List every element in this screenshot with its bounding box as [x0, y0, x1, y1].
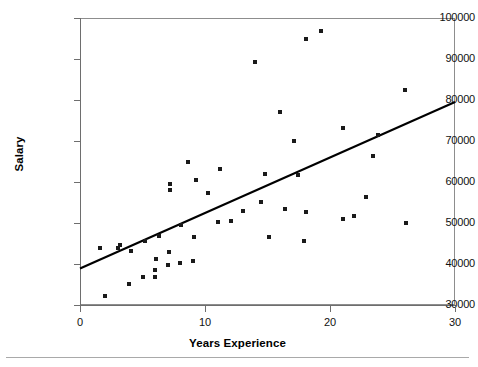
- x-tick-mark: [455, 306, 456, 312]
- y-tick-mark: [74, 182, 80, 183]
- y-tick-label: 100000: [407, 12, 475, 23]
- y-tick-label: 80000: [407, 94, 475, 105]
- y-tick-label: 50000: [407, 217, 475, 228]
- y-tick-label: 70000: [407, 135, 475, 146]
- y-tick-mark: [74, 18, 80, 19]
- x-tick-label: 0: [57, 316, 103, 328]
- x-axis-title: Years Experience: [0, 337, 475, 349]
- x-axis-line: [80, 305, 456, 306]
- footer-divider: [6, 357, 469, 358]
- x-tick-label: 30: [432, 316, 478, 328]
- y-tick-mark: [74, 223, 80, 224]
- y-tick-label: 30000: [407, 299, 475, 310]
- x-tick-mark: [80, 306, 81, 312]
- x-tick-label: 10: [182, 316, 228, 328]
- plot-area-frame: [80, 18, 455, 305]
- y-axis-line: [80, 18, 81, 306]
- y-tick-mark: [74, 141, 80, 142]
- y-tick-mark: [74, 100, 80, 101]
- y-tick-label: 90000: [407, 53, 475, 64]
- x-tick-label: 20: [307, 316, 353, 328]
- y-tick-mark: [74, 264, 80, 265]
- y-tick-mark: [74, 59, 80, 60]
- y-tick-label: 40000: [407, 258, 475, 269]
- y-tick-label: 60000: [407, 176, 475, 187]
- x-tick-mark: [330, 306, 331, 312]
- x-tick-mark: [205, 306, 206, 312]
- y-axis-title: Salary: [13, 114, 25, 194]
